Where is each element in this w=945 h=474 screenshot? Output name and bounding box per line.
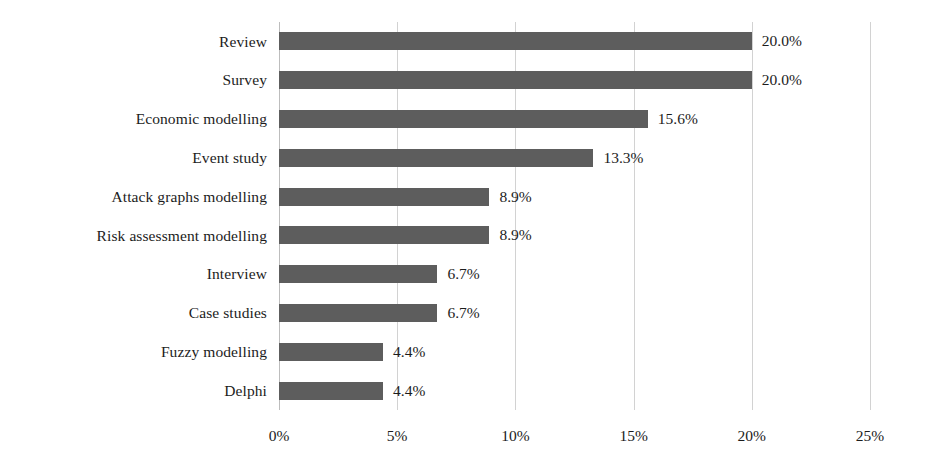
bar-row: 4.4% xyxy=(279,371,870,410)
bar-row: 20.0% xyxy=(279,22,870,61)
gridline xyxy=(870,22,871,410)
category-label-row: Event study xyxy=(0,138,267,177)
category-label: Interview xyxy=(207,266,267,282)
category-label-row: Review xyxy=(0,22,267,61)
category-label: Review xyxy=(219,34,267,50)
category-label-row: Fuzzy modelling xyxy=(0,332,267,371)
x-axis: 0%5%10%15%20%25% xyxy=(279,410,870,450)
x-axis-tick-label: 25% xyxy=(856,428,884,444)
plot-area: 20.0% 20.0% 15.6% 13.3% 8.9% 8.9% xyxy=(279,22,870,410)
bar-row: 15.6% xyxy=(279,100,870,139)
category-label: Survey xyxy=(222,72,267,88)
bar xyxy=(279,149,593,167)
x-axis-tick-label: 0% xyxy=(269,428,290,444)
category-label: Case studies xyxy=(189,305,267,321)
bar-value-label: 13.3% xyxy=(603,150,643,166)
x-axis-tick-label: 15% xyxy=(619,428,647,444)
category-label: Risk assessment modelling xyxy=(97,228,267,244)
bar-row: 13.3% xyxy=(279,138,870,177)
bar xyxy=(279,226,489,244)
category-label-row: Case studies xyxy=(0,294,267,333)
bar xyxy=(279,343,383,361)
bar-value-label: 6.7% xyxy=(447,305,479,321)
x-axis-tick-label: 10% xyxy=(501,428,529,444)
bar-chart: Review Survey Economic modelling Event s… xyxy=(0,0,945,474)
bar xyxy=(279,382,383,400)
bar-value-label: 8.9% xyxy=(499,228,531,244)
category-label-row: Interview xyxy=(0,255,267,294)
category-label-row: Delphi xyxy=(0,371,267,410)
x-axis-tick-label: 5% xyxy=(387,428,408,444)
bar-value-label: 15.6% xyxy=(658,111,698,127)
x-axis-tick-label: 20% xyxy=(738,428,766,444)
category-label: Attack graphs modelling xyxy=(111,189,267,205)
category-label: Event study xyxy=(192,150,267,166)
bar-row: 6.7% xyxy=(279,255,870,294)
category-label: Delphi xyxy=(224,383,267,399)
bar xyxy=(279,188,489,206)
bar xyxy=(279,265,437,283)
bar-row: 4.4% xyxy=(279,332,870,371)
category-label-row: Risk assessment modelling xyxy=(0,216,267,255)
bar-row: 6.7% xyxy=(279,294,870,333)
bar xyxy=(279,110,648,128)
bar xyxy=(279,304,437,322)
category-label-row: Survey xyxy=(0,61,267,100)
bar-row: 8.9% xyxy=(279,177,870,216)
category-axis-labels: Review Survey Economic modelling Event s… xyxy=(0,22,267,410)
category-label-row: Attack graphs modelling xyxy=(0,177,267,216)
bar-value-label: 20.0% xyxy=(762,72,802,88)
bar xyxy=(279,71,752,89)
bar-row: 20.0% xyxy=(279,61,870,100)
bar-value-label: 8.9% xyxy=(499,189,531,205)
bar-value-label: 20.0% xyxy=(762,34,802,50)
category-label: Fuzzy modelling xyxy=(161,344,267,360)
category-label: Economic modelling xyxy=(136,111,267,127)
bar-value-label: 4.4% xyxy=(393,383,425,399)
bar-series: 20.0% 20.0% 15.6% 13.3% 8.9% 8.9% xyxy=(279,22,870,410)
bar-value-label: 4.4% xyxy=(393,344,425,360)
bar-value-label: 6.7% xyxy=(447,266,479,282)
bar xyxy=(279,32,752,50)
category-label-row: Economic modelling xyxy=(0,100,267,139)
bar-row: 8.9% xyxy=(279,216,870,255)
